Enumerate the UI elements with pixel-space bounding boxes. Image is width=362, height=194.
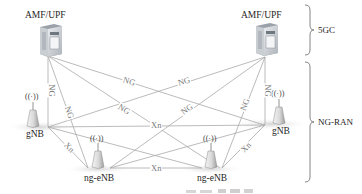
edge-label-ng: NG: [263, 83, 272, 97]
antenna-signal-icon: ((·)): [271, 89, 284, 99]
connection-lines: [48, 56, 265, 168]
edge-label-xn: Xn: [150, 164, 162, 173]
group-label-ng-ran: NG-RAN: [318, 117, 353, 127]
group-braces: [305, 5, 314, 182]
server-icon: [256, 23, 278, 56]
ng-link-amf-right-gnb-left: [48, 57, 265, 127]
base-station-icon: [92, 143, 104, 169]
network-architecture-diagram: AMF/UPF AMF/UPF gNB gNB ng-eNB ng-eNB ((…: [0, 0, 362, 194]
amf-upf-left-label: AMF/UPF: [25, 10, 66, 20]
group-label-5gc: 5GC: [318, 25, 335, 35]
edge-label-xn: Xn: [150, 121, 162, 130]
caption-fragment: [178, 186, 268, 194]
base-station-icon: [27, 102, 39, 128]
base-station-icon: [205, 143, 217, 169]
antenna-signal-icon: ((·)): [203, 134, 216, 144]
brace-5gc: [305, 5, 314, 55]
ng-link-amf-left-gnb-right: [48, 56, 264, 125]
edge-label-ng: NG: [47, 83, 56, 97]
amf-upf-right-label: AMF/UPF: [241, 10, 282, 20]
base-station-icon: [273, 99, 285, 125]
server-icon: [40, 24, 62, 57]
gnb-right-label: gNB: [272, 126, 290, 136]
antenna-signal-icon: ((·)): [90, 134, 103, 144]
gnb-left-label: gNB: [26, 129, 44, 139]
antenna-signal-icon: ((·)): [25, 92, 38, 102]
figure-caption-clipped: [178, 186, 268, 194]
ng-enb-right-label: ng-eNB: [197, 173, 227, 183]
ng-enb-left-label: ng-eNB: [84, 173, 114, 183]
